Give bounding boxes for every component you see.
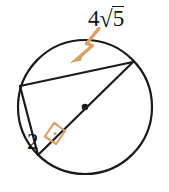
chord-coefficient: 4 bbox=[88, 6, 100, 31]
geometry-figure: 4√5 2 bbox=[0, 0, 169, 192]
chord-segment bbox=[20, 62, 133, 86]
chord-length-label: 4√5 bbox=[88, 6, 124, 30]
figure-canvas bbox=[0, 0, 169, 192]
leg-length-label: 2 bbox=[27, 130, 39, 153]
radical-group: √5 bbox=[100, 6, 125, 30]
circle-center-dot bbox=[82, 104, 89, 111]
radicand-value: 5 bbox=[112, 6, 125, 30]
right-angle-marker bbox=[45, 123, 65, 144]
pointer-arrow bbox=[72, 29, 100, 63]
